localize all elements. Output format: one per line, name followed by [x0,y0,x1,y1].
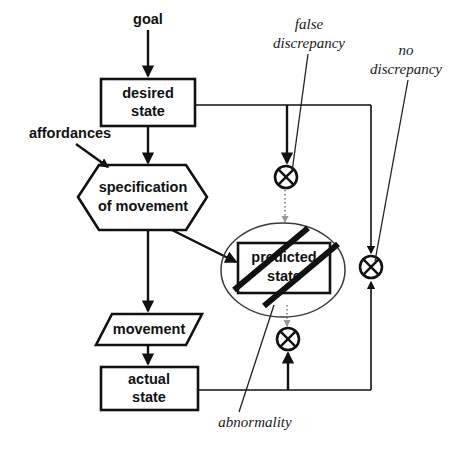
node-desired-state-label-line2: state [131,103,165,119]
comparator-right[interactable] [360,256,382,278]
node-specification-label-line2: of movement [98,198,188,214]
annotation-false-discrepancy-line2: discrepancy [273,35,345,51]
node-specification-label-line1: specification [99,179,188,195]
leader-abnormality [239,305,274,412]
annotation-no-discrepancy-line2: discrepancy [370,61,442,77]
diagram-svg: desired state specification of movement … [0,0,453,450]
node-desired-state-label-line1: desired [122,85,174,101]
diagram-canvas: desired state specification of movement … [0,0,453,450]
node-actual-state-label-line2: state [132,389,166,405]
annotation-affordances: affordances [29,125,111,141]
edge-specification-to-predicted-state [168,228,236,262]
comparator-top[interactable] [275,166,297,188]
leader-false-discrepancy [292,54,308,172]
leader-affordances [76,144,108,167]
node-movement-label: movement [113,321,186,337]
leader-no-discrepancy [375,80,408,261]
comparator-bottom[interactable] [277,328,299,350]
annotation-abnormality: abnormality [218,414,292,430]
annotation-no-discrepancy-line1: no [399,42,415,58]
node-actual-state-label-line1: actual [128,371,170,387]
annotation-goal: goal [133,11,163,27]
annotation-false-discrepancy-line1: false [295,16,324,32]
